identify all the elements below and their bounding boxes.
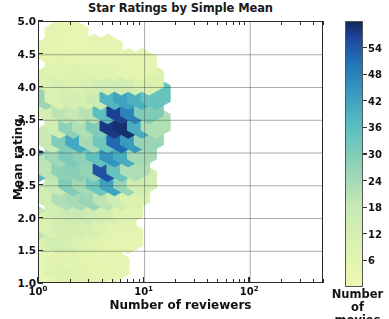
- y-axis-tick-label: 4.5: [2, 48, 36, 60]
- x-axis-minor-tick: [194, 279, 195, 283]
- x-axis-minor-tick: [207, 279, 208, 283]
- x-axis-minor-tick-top: [217, 21, 218, 25]
- colorbar-tick-mark: [363, 100, 367, 101]
- colorbar-tick-mark: [363, 233, 367, 234]
- y-axis-tick-mark: [38, 184, 43, 185]
- colorbar-tick-label: 6: [368, 255, 375, 266]
- x-axis-label: Number of reviewers: [38, 298, 323, 312]
- colorbar-label-line1: Number of: [326, 288, 389, 314]
- colorbar-tick-label: 54: [368, 42, 382, 53]
- y-axis-tick-label: 5.0: [2, 15, 36, 27]
- colorbar-tick-label: 24: [368, 175, 382, 186]
- x-axis-tick-label: 101: [134, 285, 153, 297]
- x-axis-minor-tick: [226, 279, 227, 283]
- x-axis-minor-tick-top: [233, 21, 234, 25]
- x-axis-minor-tick: [217, 279, 218, 283]
- y-axis-label: Mean rating: [11, 99, 25, 219]
- x-axis-minor-tick-top: [70, 21, 71, 25]
- colorbar-tick-label: 18: [368, 202, 382, 213]
- x-axis-minor-tick-top: [139, 21, 140, 25]
- x-axis-minor-tick: [88, 279, 89, 283]
- x-axis-minor-tick: [112, 279, 113, 283]
- x-axis-tick-label: 100: [29, 285, 48, 297]
- x-axis-minor-tick: [244, 279, 245, 283]
- colorbar-tick-label: 12: [368, 228, 382, 239]
- x-axis-tick-mark: [248, 277, 249, 283]
- hexbin-canvas: [39, 22, 323, 283]
- colorbar-tick-mark: [363, 127, 367, 128]
- x-axis-minor-tick: [175, 279, 176, 283]
- x-axis-minor-tick-top: [300, 21, 301, 25]
- x-axis-tick-label: 102: [240, 285, 259, 297]
- page-title: Star Ratings by Simple Mean: [38, 1, 323, 15]
- colorbar-tick-label: 42: [368, 95, 382, 106]
- x-axis-minor-tick: [102, 279, 103, 283]
- colorbar-label: Number of movies: [326, 288, 389, 319]
- colorbar-tick-mark: [363, 74, 367, 75]
- y-axis-tick-mark: [38, 119, 43, 120]
- y-axis-tick-mark: [38, 86, 43, 87]
- y-axis-tick-mark: [38, 53, 43, 54]
- y-axis-tick-mark: [38, 282, 43, 283]
- x-axis-tick-mark: [143, 277, 144, 283]
- x-axis-minor-tick: [281, 279, 282, 283]
- colorbar-tick-mark: [363, 180, 367, 181]
- x-axis-minor-tick: [313, 279, 314, 283]
- y-axis-tick-mark: [38, 217, 43, 218]
- x-axis-minor-tick: [70, 279, 71, 283]
- colorbar-tick-mark: [363, 207, 367, 208]
- y-axis-tick-label: 1.5: [2, 244, 36, 256]
- x-axis-minor-tick: [239, 279, 240, 283]
- x-axis-minor-tick-top: [102, 21, 103, 25]
- x-axis-minor-tick: [127, 279, 128, 283]
- x-axis-minor-tick-top: [112, 21, 113, 25]
- x-axis-minor-tick-top: [88, 21, 89, 25]
- y-axis-tick-mark: [38, 151, 43, 152]
- x-axis-minor-tick-top: [194, 21, 195, 25]
- x-axis-minor-tick-top: [281, 21, 282, 25]
- x-axis-minor-tick-top: [239, 21, 240, 25]
- x-axis-minor-tick: [323, 279, 324, 283]
- colorbar-tick-label: 48: [368, 69, 382, 80]
- colorbar: [345, 21, 363, 287]
- x-axis-minor-tick-top: [313, 21, 314, 25]
- hexbin-chart-figure: Star Ratings by Simple Mean 1.01.52.02.5…: [0, 0, 389, 319]
- x-axis-minor-tick-top: [244, 21, 245, 25]
- y-axis-tick-mark: [38, 250, 43, 251]
- colorbar-tick-mark: [363, 153, 367, 154]
- y-axis-tick-mark: [38, 20, 43, 21]
- x-axis-minor-tick-top: [133, 21, 134, 25]
- x-axis-minor-tick-top: [207, 21, 208, 25]
- x-axis-minor-tick: [120, 279, 121, 283]
- x-axis-minor-tick-top: [226, 21, 227, 25]
- colorbar-tick-label: 36: [368, 122, 382, 133]
- colorbar-tick-label: 30: [368, 149, 382, 160]
- x-axis-minor-tick: [300, 279, 301, 283]
- colorbar-tick-mark: [363, 47, 367, 48]
- x-axis-minor-tick-top: [120, 21, 121, 25]
- colorbar-tick-mark: [363, 260, 367, 261]
- x-axis-minor-tick-top: [175, 21, 176, 25]
- x-axis-minor-tick: [139, 279, 140, 283]
- x-axis-minor-tick: [233, 279, 234, 283]
- y-axis-tick-label: 4.0: [2, 81, 36, 93]
- colorbar-label-line2: movies: [326, 314, 389, 319]
- x-axis-minor-tick: [133, 279, 134, 283]
- x-axis-minor-tick-top: [127, 21, 128, 25]
- plot-area: [38, 21, 323, 283]
- x-axis-minor-tick-top: [323, 21, 324, 25]
